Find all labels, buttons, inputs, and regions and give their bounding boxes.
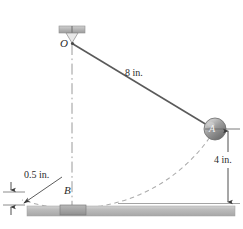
ball-height-dimension-label: 4 in. [214,155,232,165]
ball-label: A [209,124,215,134]
pendulum-rod [73,44,212,128]
swing-path-arc [22,131,214,208]
ground-surface [27,206,235,216]
pendulum-figure: O A B 8 in. 4 in. 0.5 in. [0,0,243,229]
ground-clearance-dimension-label: 0.5 in. [24,170,49,180]
bottom-point-label: B [64,185,71,196]
dimension-arrows-0.5in [3,182,25,215]
figure-canvas [0,0,243,229]
pivot-label: O [60,38,68,49]
rod-length-dimension-label: 8 in. [125,68,143,78]
base-block-at-B [60,205,86,215]
pivot-point [71,42,74,45]
leader-line-0.5in [24,177,62,203]
